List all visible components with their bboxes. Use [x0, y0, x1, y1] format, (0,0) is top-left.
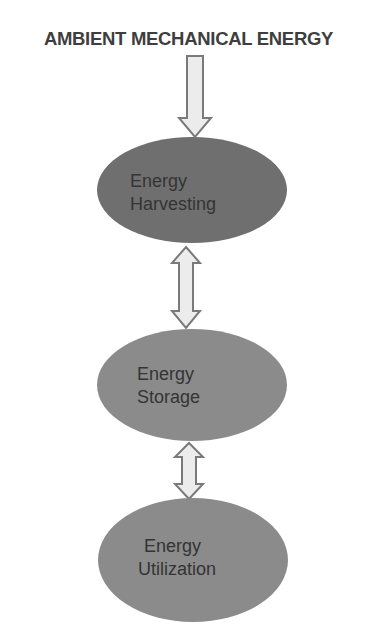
down-arrow-icon — [179, 56, 211, 137]
node-label-line: Energy — [130, 170, 216, 193]
node-label-energy-storage: Energy Storage — [137, 363, 200, 409]
bidirectional-arrow-icon — [172, 247, 200, 328]
node-label-energy-utilization: Energy Utilization — [138, 535, 216, 581]
node-label-line: Energy — [137, 363, 200, 386]
node-label-line: Energy — [138, 535, 216, 558]
node-label-line: Utilization — [138, 558, 216, 581]
bidirectional-arrow-icon — [175, 443, 203, 499]
node-label-line: Harvesting — [130, 193, 216, 216]
node-label-line: Storage — [137, 386, 200, 409]
node-label-energy-harvesting: Energy Harvesting — [130, 170, 216, 216]
